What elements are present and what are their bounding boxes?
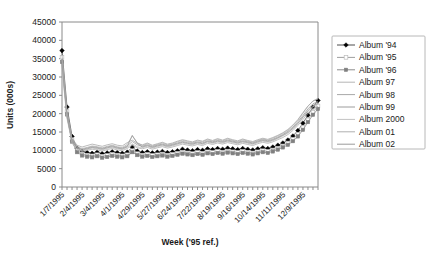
series-marker [126, 155, 129, 158]
series-marker [196, 152, 199, 155]
legend-label: Album 02 [359, 139, 395, 149]
series-6 [62, 59, 318, 150]
series-marker [156, 155, 159, 158]
plot-frame [62, 22, 318, 187]
series-line [62, 64, 318, 150]
series-marker [296, 135, 299, 138]
y-tick-label: 10000 [32, 145, 56, 155]
y-tick-group: 0500010000150002000025000300003500040000… [32, 17, 62, 192]
series-marker [151, 155, 154, 158]
series-marker [216, 151, 219, 154]
series-marker [176, 153, 179, 156]
y-tick-label: 45000 [32, 17, 56, 27]
series-marker [344, 68, 347, 71]
series-marker [301, 128, 304, 131]
y-tick-label: 5000 [37, 164, 56, 174]
y-axis-group: 0500010000150002000025000300003500040000… [5, 17, 62, 192]
series-marker [161, 154, 164, 157]
y-axis-title: Units (000s) [5, 81, 15, 129]
series-marker [316, 107, 319, 110]
series-marker [311, 113, 314, 116]
series-marker [121, 156, 124, 159]
series-marker [100, 156, 103, 159]
series-marker [271, 150, 274, 153]
series-marker [116, 155, 119, 158]
chart-legend: Album '94Album '95Album '96Album 97Album… [332, 36, 425, 149]
series-marker [80, 154, 83, 157]
series-marker [90, 156, 93, 159]
series-marker [186, 153, 189, 156]
y-tick-label: 40000 [32, 35, 56, 45]
series-line [62, 55, 318, 147]
chart-container: 0500010000150002000025000300003500040000… [0, 0, 427, 260]
y-tick-label: 35000 [32, 54, 56, 64]
y-tick-label: 20000 [32, 109, 56, 119]
y-tick-label: 15000 [32, 127, 56, 137]
line-chart: 0500010000150002000025000300003500040000… [0, 0, 427, 260]
x-tick-label-group: 1/7/19952/4/19953/4/19954/1/19954/29/199… [38, 190, 308, 225]
series-group [60, 48, 321, 159]
series-marker [246, 152, 249, 155]
series-marker [306, 120, 309, 123]
series-9 [62, 64, 318, 150]
legend-label: Album 01 [359, 127, 395, 137]
series-marker [261, 150, 264, 153]
legend-label: Album 2000 [359, 114, 405, 124]
series-marker [136, 153, 139, 156]
series-marker [75, 150, 78, 153]
series-marker [206, 152, 209, 155]
series-marker [266, 151, 269, 154]
series-marker [85, 155, 88, 158]
series-marker [191, 153, 194, 156]
series-marker [281, 146, 284, 149]
y-tick-label: 30000 [32, 72, 56, 82]
series-marker [131, 150, 134, 153]
series-marker [171, 154, 174, 157]
series-line [62, 51, 318, 154]
series-marker [236, 152, 239, 155]
y-tick-label: 25000 [32, 90, 56, 100]
series-5 [62, 55, 318, 147]
legend-label: Album '94 [359, 40, 397, 50]
series-marker [60, 48, 65, 53]
series-marker [291, 139, 294, 142]
series-marker [95, 155, 98, 158]
series-marker [181, 152, 184, 155]
series-marker [105, 155, 108, 158]
series-marker [276, 148, 279, 151]
legend-label: Album 98 [359, 90, 395, 100]
series-marker [256, 152, 259, 155]
series-marker [241, 151, 244, 154]
series-marker [141, 155, 144, 158]
x-axis-group: 1/7/19952/4/19953/4/19954/1/19954/29/199… [38, 187, 318, 247]
legend-label: Album '96 [359, 65, 397, 75]
series-marker [166, 155, 169, 158]
series-marker [251, 153, 254, 156]
series-marker [226, 151, 229, 154]
y-tick-label: 0 [51, 182, 56, 192]
x-axis-title: Week ('95 ref.) [161, 237, 218, 247]
series-marker [231, 152, 234, 155]
series-marker [221, 152, 224, 155]
legend-label: Album 99 [359, 102, 395, 112]
series-marker [286, 143, 289, 146]
series-1 [60, 48, 321, 156]
legend-label: Album 97 [359, 77, 395, 87]
series-marker [110, 154, 113, 157]
legend-label: Album '95 [359, 52, 397, 62]
series-marker [146, 154, 149, 157]
series-marker [201, 153, 204, 156]
series-line [62, 59, 318, 150]
series-marker [344, 56, 348, 60]
series-marker [211, 152, 214, 155]
